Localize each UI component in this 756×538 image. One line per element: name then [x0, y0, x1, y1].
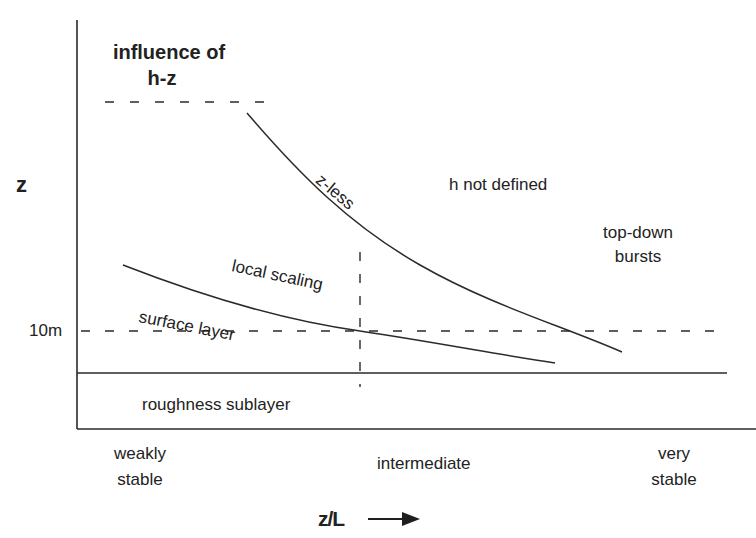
influence-line-2: h-z: [90, 65, 234, 91]
y-tick-10m: 10m: [29, 320, 62, 342]
top-down-bursts-label: top-down bursts: [588, 222, 688, 268]
x-axis-label: z/L: [318, 508, 344, 530]
z-less-curve: [247, 113, 622, 352]
stable-line-left: stable: [100, 469, 180, 491]
very-stable-label: very stable: [634, 443, 714, 491]
roughness-sublayer-label: roughness sublayer: [142, 394, 290, 416]
influence-label: influence of h-z: [104, 39, 234, 91]
top-down-line-2: bursts: [588, 246, 688, 268]
intermediate-label: intermediate: [377, 453, 471, 475]
stable-line-right: stable: [634, 469, 714, 491]
influence-line-1: influence of: [104, 39, 234, 65]
weakly-line: weakly: [100, 443, 180, 465]
top-down-line-1: top-down: [588, 222, 688, 244]
surface-layer-curve: [123, 265, 555, 363]
weakly-stable-label: weakly stable: [100, 443, 180, 491]
h-not-defined-label: h not defined: [449, 174, 547, 196]
y-axis-label: z: [16, 174, 27, 196]
very-line: very: [634, 443, 714, 465]
